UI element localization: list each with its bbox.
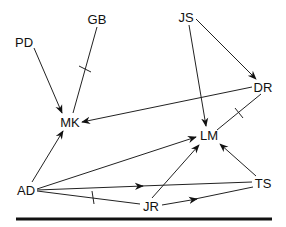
- edge-ad-lm: [37, 137, 196, 189]
- network-diagram: PD GB JS DR MK LM AD JR TS: [0, 0, 286, 227]
- node-js: JS: [178, 10, 194, 25]
- edge-dr-lm: [217, 94, 261, 130]
- edge-ad-ts-b: [141, 182, 252, 186]
- edge-gb-mk: [73, 27, 97, 113]
- edges: [32, 19, 261, 205]
- edge-jr-lm: [152, 145, 199, 198]
- edge-js-lm: [189, 25, 206, 126]
- edge-jr-ts-b: [195, 187, 253, 199]
- edge-js-dr: [196, 19, 256, 79]
- edge-ad-jr: [37, 191, 140, 204]
- node-jr: JR: [143, 199, 159, 214]
- edge-dr-mk: [82, 87, 252, 122]
- node-gb: GB: [88, 12, 107, 27]
- node-pd: PD: [15, 35, 33, 50]
- node-dr: DR: [254, 80, 273, 95]
- edge-pd-mk: [34, 48, 62, 113]
- edge-ts-lm: [220, 144, 256, 176]
- node-lm: LM: [200, 128, 218, 143]
- node-mk: MK: [60, 115, 80, 130]
- node-ts: TS: [255, 176, 272, 191]
- edge-ad-mk: [32, 131, 63, 182]
- edge-ad-ts-a: [37, 186, 143, 190]
- node-ad: AD: [17, 183, 35, 198]
- edge-jr-ts-a: [162, 199, 197, 205]
